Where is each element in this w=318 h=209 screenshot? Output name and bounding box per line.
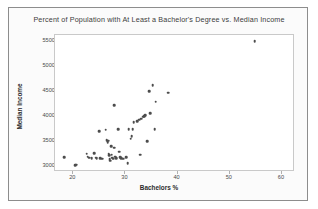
- y-axis-label: Median Income: [16, 83, 23, 129]
- scatter-point: [117, 128, 120, 131]
- x-tick-mark: [72, 171, 73, 174]
- plot-area: [54, 34, 294, 171]
- scatter-point: [254, 40, 257, 43]
- scatter-point: [109, 160, 112, 163]
- chart-container: Percent of Population with At Least a Ba…: [8, 7, 308, 201]
- scatter-point: [139, 153, 142, 156]
- scatter-point: [125, 156, 128, 159]
- scatter-point: [127, 128, 130, 131]
- x-tick-mark: [229, 171, 230, 174]
- x-tick-label: 40: [173, 174, 179, 180]
- scatter-point: [130, 135, 133, 138]
- x-tick-label: 20: [69, 174, 75, 180]
- scatter-point: [93, 152, 96, 155]
- scatter-point: [101, 157, 104, 160]
- x-tick-label: 60: [278, 174, 284, 180]
- scatter-point: [113, 104, 116, 107]
- scatter-point: [151, 84, 154, 87]
- scatter-point: [153, 128, 156, 131]
- scatter-point: [63, 156, 66, 159]
- scatter-point: [113, 146, 116, 149]
- scatter-point: [167, 91, 170, 94]
- scatter-point: [131, 128, 134, 131]
- scatter-point: [75, 164, 78, 167]
- chart-title: Percent of Population with At Least a Ba…: [9, 15, 309, 24]
- x-axis-label: Bachelors %: [9, 184, 309, 191]
- scatter-point: [129, 137, 132, 140]
- scatter-point: [154, 100, 157, 103]
- scatter-point: [98, 130, 101, 133]
- scatter-point: [146, 140, 149, 143]
- scatter-point: [104, 129, 107, 132]
- x-tick-mark: [124, 171, 125, 174]
- scatter-point: [148, 90, 151, 93]
- scatter-point: [149, 112, 152, 115]
- x-tick-mark: [281, 171, 282, 174]
- scatter-point: [118, 150, 121, 153]
- x-tick-label: 30: [121, 174, 127, 180]
- scatter-point: [90, 157, 93, 160]
- x-tick-mark: [177, 171, 178, 174]
- x-tick-label: 50: [226, 174, 232, 180]
- scatter-point: [115, 157, 118, 160]
- scatter-point: [126, 162, 129, 165]
- scatter-point: [107, 139, 110, 142]
- scatter-point: [95, 157, 98, 160]
- scatter-point: [144, 114, 147, 117]
